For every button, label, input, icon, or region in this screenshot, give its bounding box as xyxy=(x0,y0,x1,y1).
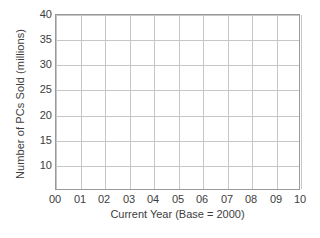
grid-layer xyxy=(56,15,299,189)
grid-line-horizontal xyxy=(56,40,299,41)
grid-line-vertical xyxy=(154,15,155,189)
y-axis-tick-label: 35 xyxy=(28,34,52,45)
x-axis-tick-label: 10 xyxy=(287,193,313,206)
grid-line-vertical xyxy=(130,15,131,189)
x-axis-title: Current Year (Base = 2000) xyxy=(55,208,300,221)
x-axis-tick-label: 04 xyxy=(140,193,166,206)
grid-line-horizontal xyxy=(56,116,299,117)
grid-line-vertical xyxy=(56,15,57,189)
grid-line-horizontal xyxy=(56,141,299,142)
plot-area xyxy=(55,14,300,190)
y-axis-tick-label: 30 xyxy=(28,59,52,70)
grid-line-vertical xyxy=(105,15,106,189)
x-axis-tick-label: 06 xyxy=(189,193,215,206)
grid-line-vertical xyxy=(203,15,204,189)
grid-line-vertical xyxy=(301,15,302,189)
x-axis-tick-label: 03 xyxy=(116,193,142,206)
y-axis-tick-label: 25 xyxy=(28,84,52,95)
y-axis-tick-label: 20 xyxy=(28,110,52,121)
grid-line-vertical xyxy=(81,15,82,189)
grid-line-vertical xyxy=(228,15,229,189)
y-axis-tick-label: 40 xyxy=(28,9,52,20)
y-axis-tick-label: 15 xyxy=(28,135,52,146)
grid-line-vertical xyxy=(277,15,278,189)
grid-line-horizontal xyxy=(56,166,299,167)
y-axis-tick-label-group: 40353025201510 xyxy=(28,14,52,190)
grid-line-vertical xyxy=(252,15,253,189)
x-axis-tick-label: 05 xyxy=(165,193,191,206)
x-axis-tick-label: 02 xyxy=(91,193,117,206)
grid-line-horizontal xyxy=(56,90,299,91)
grid-line-horizontal xyxy=(56,65,299,66)
x-axis-tick-label: 09 xyxy=(263,193,289,206)
x-axis-tick-label: 01 xyxy=(67,193,93,206)
x-axis-tick-label: 07 xyxy=(214,193,240,206)
x-axis-tick-label-group: 0001020304050607080910 xyxy=(55,193,300,207)
grid-line-vertical xyxy=(179,15,180,189)
chart-container: Number of PCs Sold (millions) 4035302520… xyxy=(0,0,320,238)
y-axis-tick-label: 10 xyxy=(28,160,52,171)
grid-line-horizontal xyxy=(56,15,299,16)
x-axis-tick-label: 08 xyxy=(238,193,264,206)
x-axis-tick-label: 00 xyxy=(42,193,68,206)
